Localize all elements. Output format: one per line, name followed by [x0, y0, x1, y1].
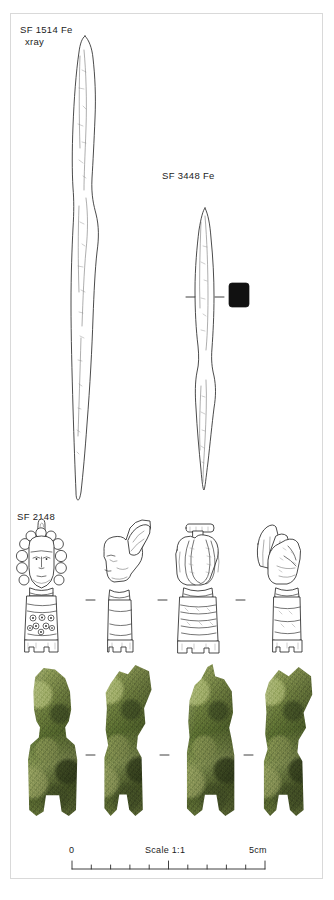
photograph-sf2148-profile-left	[92, 662, 154, 816]
drawing-sf2148-front	[16, 519, 66, 652]
label-sf-1514-xray: xray	[25, 36, 44, 48]
scale-caption: Scale 1:1	[145, 844, 185, 856]
drawing-sf2148-profile-right	[257, 525, 302, 652]
label-sf-2148: SF 2148	[17, 511, 55, 523]
figure-plate: SF 1514 Fe xray SF 3448 Fe SF 2148 .o{fi…	[0, 0, 334, 900]
drawing-sf3448	[186, 208, 249, 490]
scale-max-label: 5cm	[249, 844, 267, 856]
photograph-sf2148-back	[178, 664, 242, 816]
drawing-sf1514	[71, 36, 98, 500]
scale-bar	[72, 861, 265, 869]
label-sf-3448: SF 3448 Fe	[162, 170, 215, 182]
drawing-sf2148-back	[176, 524, 219, 653]
scale-zero-label: 0	[69, 844, 74, 856]
photograph-sf2148-front	[22, 668, 82, 816]
ring-and-dot-decoration	[27, 615, 54, 635]
photograph-sf2148-profile-right	[254, 664, 316, 816]
label-sf-1514: SF 1514 Fe	[20, 24, 73, 36]
drawing-sf2148-profile-left	[104, 520, 151, 652]
